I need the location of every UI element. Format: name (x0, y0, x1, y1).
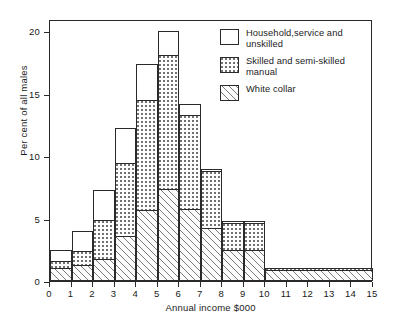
y-axis-tick-label: 5 (14, 214, 40, 225)
histogram-bar (115, 19, 137, 281)
bar-segment (158, 55, 180, 189)
x-axis-tick-label: 0 (40, 288, 58, 299)
bar-segment (115, 128, 137, 164)
x-axis-tick-label: 5 (148, 288, 166, 299)
legend-item-label: White collar (246, 84, 296, 95)
bar-segment (222, 223, 244, 251)
x-axis-tick (243, 282, 244, 287)
bar-segment (222, 250, 244, 281)
histogram-bar (179, 19, 201, 281)
x-axis-tick (286, 282, 287, 287)
x-axis-tick-label: 6 (169, 288, 187, 299)
histogram-bar (93, 19, 115, 281)
x-axis-tick (350, 282, 351, 287)
x-axis-tick-label: 4 (126, 288, 144, 299)
y-axis-tick-label: 10 (14, 151, 40, 162)
x-axis-tick-label: 15 (363, 288, 381, 299)
bar-segment (244, 250, 266, 281)
bar-segment (179, 115, 201, 210)
bar-segment (50, 261, 72, 268)
x-axis-tick (114, 282, 115, 287)
x-axis-tick (264, 282, 265, 287)
legend-item-label: Household,service and unskilled (246, 28, 370, 49)
hatched-swatch (220, 85, 239, 101)
x-axis-tick (307, 282, 308, 287)
y-axis-title: Per cent of all males (18, 56, 29, 166)
bar-segment (50, 268, 72, 281)
bar-segment (50, 250, 72, 262)
x-axis-tick-label: 9 (234, 288, 252, 299)
bar-segment (115, 236, 137, 281)
bar-segment (136, 100, 158, 211)
bar-segment (201, 169, 223, 172)
y-axis-tick-label: 20 (14, 26, 40, 37)
x-axis-tick (200, 282, 201, 287)
x-axis-tick-label: 7 (191, 288, 209, 299)
histogram-bar (158, 19, 180, 281)
legend-item: White collar (220, 84, 370, 101)
bar-segment (158, 31, 180, 57)
bar-segment (265, 268, 373, 271)
x-axis-tick (71, 282, 72, 287)
x-axis-tick (178, 282, 179, 287)
dotted-swatch (220, 57, 239, 73)
bar-segment (158, 189, 180, 281)
bar-segment (201, 171, 223, 228)
x-axis-tick-label: 1 (62, 288, 80, 299)
x-axis-title: Annual income $000 (49, 302, 372, 313)
bar-segment (136, 64, 158, 101)
bar-segment (179, 104, 201, 116)
bar-segment (201, 228, 223, 281)
x-axis-tick-label: 3 (105, 288, 123, 299)
histogram-bar (136, 19, 158, 281)
x-axis-tick (329, 282, 330, 287)
bar-segment (72, 231, 94, 252)
bar-segment (222, 221, 244, 223)
legend-item-label: Skilled and semi-skilled manual (246, 56, 370, 77)
x-axis-tick (372, 282, 373, 287)
x-axis-tick-label: 14 (341, 288, 359, 299)
legend-item: Skilled and semi-skilled manual (220, 56, 370, 77)
x-axis-tick (135, 282, 136, 287)
bar-segment (244, 221, 266, 223)
x-axis-tick-label: 2 (83, 288, 101, 299)
bar-segment (265, 270, 373, 281)
bar-segment (93, 259, 115, 281)
y-axis-tick-label: 0 (14, 276, 40, 287)
bar-segment (115, 163, 137, 238)
histogram-bar (72, 19, 94, 281)
bar-segment (244, 223, 266, 251)
x-axis-tick (157, 282, 158, 287)
chart-root: Per cent of all males 05101520 012345678… (0, 0, 396, 323)
blank-swatch (220, 29, 239, 45)
x-axis-tick (49, 282, 50, 287)
bar-segment (72, 251, 94, 266)
x-axis-tick (92, 282, 93, 287)
legend: Household,service and unskilledSkilled a… (220, 28, 370, 108)
bar-segment (72, 265, 94, 281)
x-axis-tick-label: 8 (212, 288, 230, 299)
x-axis-tick-label: 12 (298, 288, 316, 299)
x-axis-tick (221, 282, 222, 287)
bar-segment (93, 220, 115, 260)
bar-segment (136, 210, 158, 281)
bar-segment (179, 209, 201, 281)
x-axis-tick-label: 10 (255, 288, 273, 299)
histogram-bar (50, 19, 72, 281)
bar-segment (93, 190, 115, 221)
x-axis-tick-label: 11 (277, 288, 295, 299)
x-axis-tick-label: 13 (320, 288, 338, 299)
legend-item: Household,service and unskilled (220, 28, 370, 49)
y-axis-tick-label: 15 (14, 89, 40, 100)
